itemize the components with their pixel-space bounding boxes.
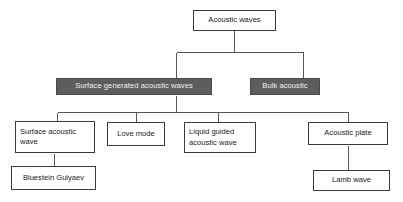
- node-bulk-acoustic: Bulk acoustic: [250, 78, 320, 95]
- node-acoustic-plate-label: Acoustic plate: [320, 128, 375, 139]
- node-acoustic-waves-label: Acoustic waves: [204, 15, 264, 26]
- node-lamb-wave: Lamb wave: [313, 170, 390, 191]
- node-liquid-guided-acoustic-wave-label: Liquid guided acoustic wave: [185, 127, 241, 148]
- node-surface-generated-acoustic-waves: Surface generated acoustic waves: [56, 78, 212, 95]
- node-surface-acoustic-wave-label: Surface acoustic wave: [16, 127, 80, 148]
- node-acoustic-waves: Acoustic waves: [193, 10, 276, 31]
- node-love-mode: Love mode: [107, 122, 165, 146]
- node-lamb-wave-label: Lamb wave: [328, 175, 375, 186]
- node-liquid-guided-acoustic-wave: Liquid guided acoustic wave: [184, 122, 256, 153]
- acoustic-waves-hierarchy-diagram: Acoustic waves Surface generated acousti…: [0, 0, 403, 202]
- node-bluestein-gulyaev: Bluestein Gulyaev: [11, 166, 96, 190]
- node-love-mode-label: Love mode: [113, 129, 159, 140]
- node-bulk-acoustic-label: Bulk acoustic: [258, 81, 311, 92]
- node-bluestein-gulyaev-label: Bluestein Gulyaev: [19, 173, 88, 184]
- node-surface-acoustic-wave: Surface acoustic wave: [15, 121, 95, 153]
- node-acoustic-plate: Acoustic plate: [308, 122, 388, 145]
- node-surface-generated-acoustic-waves-label: Surface generated acoustic waves: [71, 81, 197, 92]
